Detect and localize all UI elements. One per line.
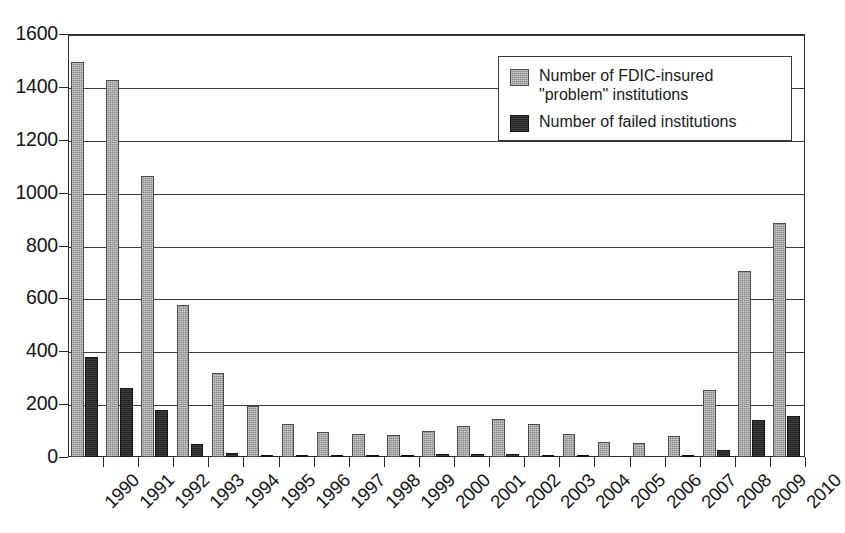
x-axis-tick-mark	[700, 457, 701, 467]
x-axis-tick-mark	[770, 457, 771, 467]
x-axis-tick-mark	[419, 457, 420, 467]
bar-problem-institutions	[528, 424, 541, 457]
y-axis-tick-mark	[59, 351, 68, 352]
y-axis-tick-label: 800	[26, 236, 58, 256]
legend-label-failed-institutions: Number of failed institutions	[539, 113, 736, 132]
bar-failed-institutions	[366, 455, 379, 457]
x-axis-tick-label: 2008	[732, 470, 774, 512]
x-axis-tick-mark	[559, 457, 560, 467]
x-axis-tick-mark	[314, 457, 315, 467]
bar-problem-institutions	[317, 432, 330, 457]
x-axis-tick-mark	[805, 457, 806, 467]
black-swatch-icon	[510, 115, 529, 132]
x-axis-tick-mark	[594, 457, 595, 467]
x-axis-tick-label: 2001	[487, 470, 529, 512]
bar-problem-institutions	[247, 406, 260, 457]
bar-group	[419, 34, 454, 457]
bar-failed-institutions	[752, 420, 765, 457]
bar-failed-institutions	[155, 410, 168, 457]
bar-group	[138, 34, 173, 457]
bar-group	[454, 34, 489, 457]
bar-problem-institutions	[422, 431, 435, 457]
y-axis-tick-mark	[59, 34, 68, 35]
y-axis-tick-label: 400	[26, 341, 58, 361]
bar-failed-institutions	[296, 455, 309, 457]
x-axis-tick-label: 1997	[346, 470, 388, 512]
bar-problem-institutions	[71, 62, 84, 458]
x-axis-tick-mark	[208, 457, 209, 467]
y-axis-tick-label: 200	[26, 394, 58, 414]
bar-problem-institutions	[282, 424, 295, 457]
x-axis-tick-mark	[384, 457, 385, 467]
x-axis-tick-label: 1992	[171, 470, 213, 512]
bar-problem-institutions	[457, 426, 470, 457]
x-axis-tick-mark	[454, 457, 455, 467]
bar-problem-institutions	[177, 305, 190, 457]
bar-failed-institutions	[261, 455, 274, 457]
y-axis-tick-mark	[59, 404, 68, 405]
y-axis-tick-label: 1000	[15, 183, 58, 203]
bar-problem-institutions	[212, 373, 225, 457]
bar-failed-institutions	[717, 450, 730, 457]
bar-failed-institutions	[577, 455, 590, 457]
x-axis-tick-label: 1991	[136, 470, 178, 512]
y-axis-tick-mark	[59, 246, 68, 247]
y-axis-tick-mark	[59, 193, 68, 194]
bar-problem-institutions	[703, 390, 716, 457]
y-axis-tick-label: 1400	[15, 77, 58, 97]
y-axis-tick-label: 1200	[15, 130, 58, 150]
x-axis-tick-mark	[665, 457, 666, 467]
x-axis-tick-label: 1990	[101, 470, 143, 512]
bar-failed-institutions	[471, 454, 484, 457]
x-axis-tick-label: 2002	[522, 470, 564, 512]
x-axis-tick-label: 1994	[241, 470, 283, 512]
bar-failed-institutions	[331, 455, 344, 457]
y-axis-tick-label: 600	[26, 288, 58, 308]
bar-failed-institutions	[120, 388, 133, 457]
x-axis-tick-label: 2010	[803, 470, 845, 512]
x-axis-tick-label: 1999	[417, 470, 459, 512]
chart-legend: Number of FDIC-insured "problem" institu…	[498, 56, 792, 141]
bar-group	[208, 34, 243, 457]
x-axis-tick-label: 2009	[768, 470, 810, 512]
bar-failed-institutions	[542, 455, 555, 457]
gray-swatch-icon	[510, 69, 529, 86]
x-axis-tick-label: 2000	[452, 470, 494, 512]
bar-group	[349, 34, 384, 457]
bar-problem-institutions	[492, 419, 505, 457]
legend-item-problem-institutions: Number of FDIC-insured "problem" institu…	[510, 67, 791, 104]
x-axis-tick-label: 1998	[382, 470, 424, 512]
bar-group	[103, 34, 138, 457]
y-axis-tick-mark	[59, 87, 68, 88]
bar-failed-institutions	[506, 454, 519, 457]
x-axis-tick-label: 1993	[206, 470, 248, 512]
x-axis-tick-mark	[489, 457, 490, 467]
x-axis-tick-label: 1996	[311, 470, 353, 512]
bar-problem-institutions	[598, 442, 611, 457]
y-axis: 02004006008001000120014001600	[0, 0, 58, 533]
x-axis-tick-mark	[243, 457, 244, 467]
x-axis-tick-label: 2006	[662, 470, 704, 512]
bar-problem-institutions	[633, 443, 646, 457]
bar-failed-institutions	[401, 455, 414, 457]
x-axis-tick-mark	[138, 457, 139, 467]
y-axis-tick-mark	[59, 140, 68, 141]
legend-item-failed-institutions: Number of failed institutions	[510, 113, 791, 132]
bar-problem-institutions	[387, 435, 400, 457]
bar-group	[243, 34, 278, 457]
bar-failed-institutions	[682, 455, 695, 457]
bar-problem-institutions	[106, 80, 119, 457]
bar-problem-institutions	[773, 223, 786, 457]
bar-failed-institutions	[436, 454, 449, 457]
x-axis-tick-label: 2007	[697, 470, 739, 512]
bar-failed-institutions	[787, 416, 800, 458]
bar-failed-institutions	[85, 357, 98, 457]
x-axis-tick-label: 2005	[627, 470, 669, 512]
x-axis-tick-mark	[173, 457, 174, 467]
bar-group	[384, 34, 419, 457]
bar-group	[314, 34, 349, 457]
x-axis-tick-mark	[524, 457, 525, 467]
x-axis-tick-mark	[630, 457, 631, 467]
bar-group	[279, 34, 314, 457]
